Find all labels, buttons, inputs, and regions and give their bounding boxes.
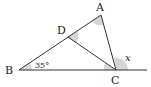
angle-label-b: 35°	[35, 61, 49, 70]
label-c: C	[111, 74, 119, 87]
label-b: B	[5, 64, 13, 77]
label-d: D	[57, 24, 66, 37]
label-a: A	[95, 1, 105, 14]
triangle-diagram: A B C D 35° x	[0, 0, 151, 87]
angle-label-x: x	[125, 52, 131, 63]
